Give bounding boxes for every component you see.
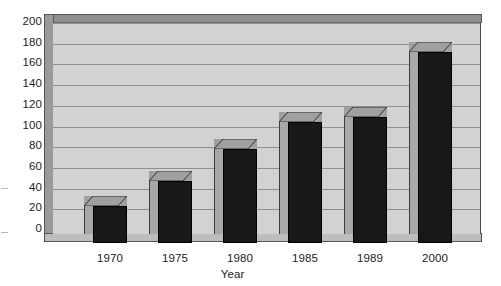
bar-top-face bbox=[84, 196, 127, 206]
y-tick-label: 180 bbox=[6, 36, 42, 47]
x-tick-label: 1975 bbox=[162, 252, 188, 264]
bar-side-face bbox=[279, 113, 288, 234]
bar-top-face bbox=[344, 107, 387, 117]
bar-front-face bbox=[223, 149, 257, 243]
bar-top-face bbox=[214, 139, 257, 149]
bar-top-face bbox=[279, 112, 322, 122]
bar-side-face bbox=[149, 172, 158, 234]
edge-artifact bbox=[1, 188, 8, 189]
x-tick-label: 1980 bbox=[227, 252, 253, 264]
y-tick-label: 60 bbox=[6, 160, 42, 171]
x-axis-title-text: Year bbox=[221, 268, 245, 280]
y-tick-label: 0 bbox=[6, 223, 42, 234]
bar-chart: 200 180 160 140 120 100 80 60 40 20 0 bbox=[0, 0, 501, 286]
y-tick-label: 200 bbox=[6, 16, 42, 27]
bar-2000[interactable] bbox=[418, 52, 452, 243]
bar-front-face bbox=[93, 206, 127, 243]
x-tick-label: 1970 bbox=[97, 252, 123, 264]
bar-front-face bbox=[418, 52, 452, 243]
y-axis-labels: 200 180 160 140 120 100 80 60 40 20 0 bbox=[0, 0, 42, 286]
x-axis-labels: 1970 1975 1980 1985 1989 2000 bbox=[44, 252, 482, 268]
y-tick-label: 120 bbox=[6, 98, 42, 109]
bar-side-face bbox=[214, 140, 223, 234]
x-tick-label: 2000 bbox=[422, 252, 448, 264]
bar-1975[interactable] bbox=[158, 181, 192, 243]
bar-front-face bbox=[353, 117, 387, 243]
y-tick-label: 140 bbox=[6, 78, 42, 89]
bar-1970[interactable] bbox=[93, 206, 127, 243]
edge-artifact bbox=[1, 232, 8, 233]
bar-top-face bbox=[409, 42, 452, 52]
y-tick-label: 100 bbox=[6, 119, 42, 130]
x-axis-title: Year bbox=[0, 268, 501, 280]
y-tick-label: 80 bbox=[6, 140, 42, 151]
bar-front-face bbox=[158, 181, 192, 243]
bar-front-face bbox=[288, 122, 322, 243]
x-tick-label: 1985 bbox=[292, 252, 318, 264]
x-tick-label: 1989 bbox=[357, 252, 383, 264]
y-tick-label: 160 bbox=[6, 57, 42, 68]
y-tick-label: 40 bbox=[6, 181, 42, 192]
bar-1980[interactable] bbox=[223, 149, 257, 243]
bar-side-face bbox=[409, 43, 418, 234]
y-tick-label: 20 bbox=[6, 202, 42, 213]
bar-top-face bbox=[149, 171, 192, 181]
bar-side-face bbox=[344, 108, 353, 234]
bars-layer bbox=[44, 14, 482, 260]
bar-1989[interactable] bbox=[353, 117, 387, 243]
bar-1985[interactable] bbox=[288, 122, 322, 243]
